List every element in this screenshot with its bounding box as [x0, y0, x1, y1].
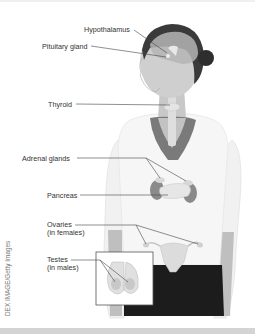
- label-hypothalamus: Hypothalamus: [84, 26, 130, 34]
- head: [140, 24, 214, 98]
- label-pancreas: Pancreas: [47, 192, 77, 200]
- label-pituitary-gland: Pituitary gland: [42, 43, 88, 51]
- photo-credit: DEX IMAGE/Getty Images: [4, 241, 11, 316]
- label-adrenal-glands: Adrenal glands: [22, 155, 70, 163]
- label-testes-note: (in males): [47, 264, 79, 272]
- testes-inset: [96, 252, 153, 305]
- label-thyroid: Thyroid: [48, 101, 72, 109]
- endocrine-illustration: [0, 0, 255, 334]
- label-ovaries-note: (in females): [47, 229, 85, 237]
- bottom-border: [0, 328, 255, 334]
